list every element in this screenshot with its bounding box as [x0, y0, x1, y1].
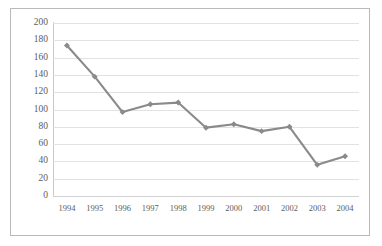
- y-axis-tick-label: 140: [34, 70, 48, 80]
- y-axis-tick-label: 80: [39, 122, 49, 132]
- y-axis-tick-labels: 200180160140120100806040200: [11, 9, 48, 209]
- series-line: [67, 45, 345, 164]
- y-axis-tick-label: 40: [39, 156, 49, 166]
- gridline: [53, 196, 359, 197]
- data-point-marker: [147, 101, 153, 107]
- x-axis-tick-label: 1999: [198, 204, 215, 213]
- y-axis-tick-label: 0: [43, 191, 48, 201]
- plot-area: [53, 23, 359, 196]
- x-axis-tick-label: 2000: [225, 204, 242, 213]
- y-axis-tick-label: 200: [34, 18, 48, 28]
- x-axis-tick-label: 1994: [58, 204, 75, 213]
- x-axis-tick-label: 1997: [142, 204, 159, 213]
- x-axis-tick-labels: 1994199519961997199819992000200120022003…: [53, 204, 359, 218]
- y-axis-tick-label: 120: [34, 87, 48, 97]
- x-axis-tick-label: 1998: [170, 204, 187, 213]
- x-axis-tick-label: 1995: [86, 204, 103, 213]
- y-axis-tick-label: 100: [34, 105, 48, 115]
- data-point-marker: [231, 121, 237, 127]
- x-axis-tick-label: 2004: [337, 204, 354, 213]
- y-axis-tick-label: 60: [39, 139, 49, 149]
- x-axis-tick-label: 2003: [309, 204, 326, 213]
- y-axis-tick-label: 160: [34, 53, 48, 63]
- chart-figure: 200180160140120100806040200 199419951996…: [10, 8, 370, 236]
- data-point-marker: [259, 128, 265, 134]
- x-axis-tick-label: 1996: [114, 204, 131, 213]
- y-axis-tick-label: 20: [39, 174, 49, 184]
- data-point-marker: [342, 153, 348, 159]
- x-axis-tick-label: 2002: [281, 204, 298, 213]
- line-series: [53, 23, 359, 196]
- x-axis-tick-label: 2001: [253, 204, 270, 213]
- y-axis-tick-label: 180: [34, 35, 48, 45]
